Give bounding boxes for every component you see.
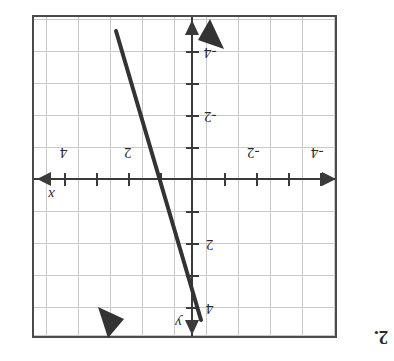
y-tick-label-neg2: -2 <box>204 109 217 124</box>
x-tick-label-4: 4 <box>60 145 68 160</box>
y-tick-label-2: 2 <box>206 237 214 252</box>
y-tick-label-4: 4 <box>206 301 214 316</box>
axis-labels-layer: 4 2 -2 -4 -4 -2 2 4 x y <box>34 17 335 336</box>
x-axis-label: x <box>48 187 55 202</box>
graph-frame: 4 2 -2 -4 -4 -2 2 4 x y <box>32 15 337 338</box>
y-axis-label: y <box>175 315 182 330</box>
worksheet-page: 4 2 -2 -4 -4 -2 2 4 x y 2. <box>0 0 394 361</box>
x-tick-label-neg4: -4 <box>311 145 324 160</box>
x-tick-label-2: 2 <box>124 145 132 160</box>
y-tick-label-neg4: -4 <box>204 45 217 60</box>
x-tick-label-neg2: -2 <box>247 145 260 160</box>
problem-number: 2. <box>374 328 388 347</box>
